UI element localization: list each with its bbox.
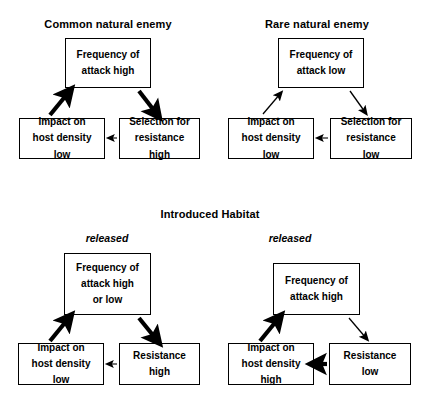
node-selection-for-resistance-rare: Selection for resistance low [330, 118, 412, 159]
node-line: host density [242, 356, 301, 372]
edge-rare-top-to-right [350, 91, 365, 112]
panel-title-common-natural-enemy: Common natural enemy [18, 18, 198, 30]
edge-introduced-left-left-to-top [50, 319, 68, 341]
node-line: low [53, 372, 70, 388]
node-frequency-of-attack-introduced-right: Frequency of attack high [273, 263, 360, 315]
node-line: Resistance [344, 348, 397, 364]
node-line: high [149, 147, 170, 163]
node-line: Selection for [341, 114, 402, 130]
node-impact-on-host-density-introduced-right: Impact on host density high [228, 343, 314, 385]
node-line: low [363, 147, 380, 163]
node-line: Selection for [129, 114, 190, 130]
edge-rare-left-to-top [263, 94, 280, 114]
edge-introduced-left-top-to-right [139, 318, 156, 339]
node-line: host density [242, 130, 301, 146]
section-title-introduced-habitat: Introduced Habitat [130, 208, 290, 220]
node-line: attack high [82, 63, 135, 79]
node-line: low [54, 147, 71, 163]
node-line: Impact on [247, 114, 294, 130]
node-line: host density [33, 130, 92, 146]
node-line: attack high [81, 276, 134, 292]
released-label-right: released [245, 232, 335, 244]
node-line: Resistance [133, 348, 186, 364]
node-selection-for-resistance-common: Selection for resistance high [119, 118, 200, 159]
node-impact-on-host-density-introduced-left: Impact on host density low [18, 343, 104, 385]
node-frequency-of-attack-rare: Frequency of attack low [278, 38, 364, 88]
node-frequency-of-attack-introduced-left: Frequency of attack high or low [64, 253, 151, 315]
node-impact-on-host-density-rare: Impact on host density low [228, 118, 314, 159]
node-resistance-introduced-right: Resistance low [329, 343, 411, 385]
node-line: Impact on [37, 340, 84, 356]
node-line: resistance [346, 130, 395, 146]
node-line: high [260, 372, 281, 388]
node-resistance-introduced-left: Resistance high [119, 343, 200, 385]
edge-introduced-right-left-to-top [260, 319, 278, 341]
node-line: Frequency of [76, 260, 139, 276]
node-line: or low [93, 292, 122, 308]
node-line: Impact on [38, 114, 85, 130]
panel-title-rare-natural-enemy: Rare natural enemy [232, 18, 402, 30]
node-frequency-of-attack-common: Frequency of attack high [65, 38, 151, 88]
node-line: resistance [135, 130, 184, 146]
node-line: attack high [290, 289, 343, 305]
node-line: attack low [297, 63, 345, 79]
node-line: low [362, 364, 379, 380]
node-line: Impact on [247, 340, 294, 356]
node-impact-on-host-density-common: Impact on host density low [19, 118, 105, 159]
edge-introduced-right-top-to-right [349, 318, 366, 338]
node-line: high [149, 364, 170, 380]
node-line: Frequency of [77, 47, 140, 63]
node-line: low [263, 147, 280, 163]
node-line: Frequency of [285, 273, 348, 289]
node-line: Frequency of [290, 47, 353, 63]
diagram-canvas: Common natural enemy Rare natural enemy … [0, 0, 426, 407]
node-line: host density [32, 356, 91, 372]
released-label-left: released [62, 232, 152, 244]
edge-common-top-to-right [139, 91, 156, 113]
edge-common-left-to-top [50, 93, 68, 115]
